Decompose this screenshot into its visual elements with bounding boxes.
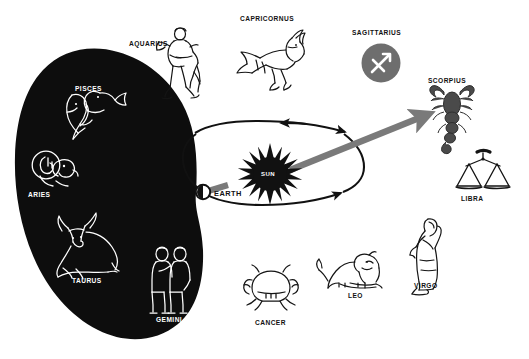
sagittarius-badge [362,44,401,83]
sun-label: SUN [261,171,275,177]
capricornus-seagoat-icon [237,30,305,90]
constellation-label-taurus: TAURUS [72,278,102,285]
constellation-label-aquarius: AQUARIUS [129,41,168,48]
diagram-canvas [0,0,529,359]
earth-graphic [196,185,210,199]
constellation-label-aries: ARIES [28,192,50,199]
scorpius-scorpion-icon [430,86,474,154]
leo-lion-icon [317,252,382,288]
constellation-label-capricornus: CAPRICORNUS [240,16,294,23]
constellation-label-scorpius: SCORPIUS [428,78,466,85]
constellation-label-leo: LEO [348,293,363,300]
constellation-label-gemini: GEMINI [156,317,182,324]
constellation-label-sagittarius: SAGITTARIUS [352,30,401,37]
constellation-label-cancer: CANCER [255,320,286,327]
libra-scales-icon [456,151,510,189]
sightline-arrow-earth-to-scorpius [205,116,424,192]
constellation-label-pisces: PISCES [75,86,102,93]
constellation-label-libra: LIBRA [461,196,483,203]
zodiac-diagram: PISCES AQUARIUS CAPRICORNUS SAGITTARIUS … [0,0,529,359]
earth-label: EARTH [214,190,242,197]
cancer-crab-icon [244,265,299,310]
constellation-label-virgo: VIRGO [414,283,438,290]
